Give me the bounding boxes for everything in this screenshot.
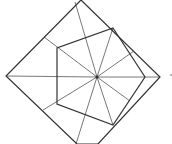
radial-line	[76, 77, 97, 144]
marker-dot	[170, 74, 172, 76]
radial-line	[97, 28, 113, 77]
radial-line	[97, 77, 113, 125]
radial-line	[97, 77, 130, 101]
geometry-diagram	[0, 0, 172, 144]
radial-line	[6, 76, 97, 77]
radial-line	[97, 51, 134, 77]
radial-line	[43, 77, 97, 110]
radial-lines	[6, 2, 160, 144]
center-point	[95, 75, 98, 78]
radial-line	[75, 2, 97, 77]
